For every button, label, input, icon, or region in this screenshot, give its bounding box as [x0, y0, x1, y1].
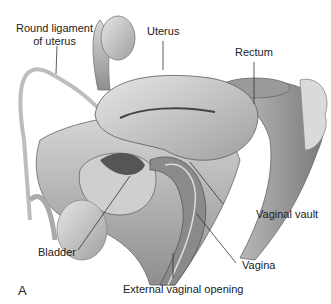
label-uterus: Uterus [147, 25, 179, 38]
label-round-ligament: Round ligament of uterus [16, 22, 93, 48]
label-round-ligament-line2: of uterus [16, 35, 93, 48]
label-round-ligament-line1: Round ligament [16, 22, 93, 35]
label-vaginal-vault: Vaginal vault [256, 208, 318, 221]
label-external-vaginal-opening: External vaginal opening [123, 283, 243, 296]
label-bladder: Bladder [38, 246, 76, 259]
label-rectum: Rectum [235, 46, 273, 59]
label-vagina: Vagina [242, 259, 275, 272]
panel-letter: A [18, 284, 27, 297]
anatomy-figure: Round ligament of uterus Uterus Rectum V… [0, 0, 331, 304]
